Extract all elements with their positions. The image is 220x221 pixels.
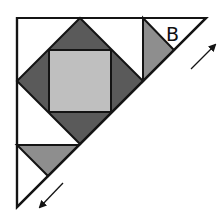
block-label-b: B xyxy=(166,23,179,45)
center-square xyxy=(49,50,111,112)
quilt-block-diagram: B xyxy=(0,0,220,221)
arrow-up-right-icon xyxy=(191,45,215,69)
arrow-down-left-icon xyxy=(40,183,63,207)
